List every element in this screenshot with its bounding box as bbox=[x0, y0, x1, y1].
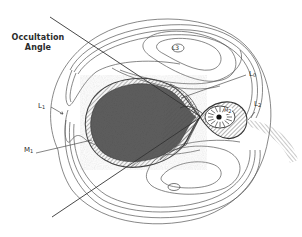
m1-leader-line bbox=[36, 140, 92, 153]
l2-subscript: 2 bbox=[258, 102, 261, 108]
l2-label: L2 bbox=[254, 101, 261, 108]
l2-outflow-stream bbox=[248, 120, 298, 163]
secondary-star bbox=[160, 84, 247, 160]
l1-subscript: 1 bbox=[42, 104, 45, 110]
l2-leader-line bbox=[248, 112, 255, 120]
occultation-label-line2: Angle bbox=[8, 44, 68, 52]
l3-label: L3 bbox=[172, 45, 179, 51]
occultation-angle-label: Occultation Angle bbox=[8, 34, 68, 52]
l1-arrow bbox=[51, 107, 63, 114]
l0-subscript: 0 bbox=[253, 72, 256, 78]
m2-subscript: 2 bbox=[228, 108, 231, 114]
m2-label: M2 bbox=[224, 108, 232, 114]
l0-label: L0 bbox=[249, 71, 256, 78]
l0-leader-line bbox=[181, 75, 246, 98]
compact-object-dot bbox=[216, 114, 221, 119]
l1-label: L1 bbox=[38, 103, 45, 110]
m1-label: M1 bbox=[24, 147, 33, 154]
occultation-label-line1: Occultation bbox=[8, 34, 68, 42]
m1-subscript: 1 bbox=[30, 148, 33, 154]
